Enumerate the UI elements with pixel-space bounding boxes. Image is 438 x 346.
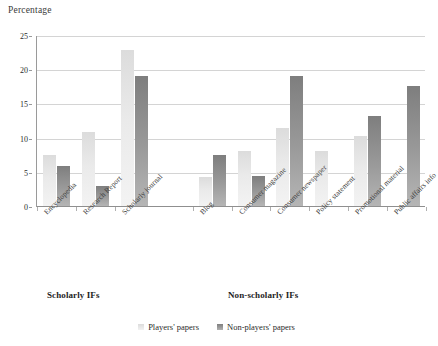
chart-legend: Players' papersNon-players' papers: [0, 322, 433, 332]
bar-group: [193, 36, 232, 206]
y-tick-mark: [29, 36, 32, 37]
y-tick-mark: [29, 207, 32, 208]
y-tick-mark: [29, 173, 32, 174]
bars-container: [37, 36, 425, 206]
y-tick-label: 0: [24, 203, 28, 212]
group-label-non-scholarly: Non-scholarly IFs: [228, 290, 298, 300]
y-axis-title: Percentage: [8, 5, 52, 15]
y-tick-label: 10: [20, 134, 28, 143]
dark-square-icon: [217, 324, 223, 330]
bar[interactable]: [121, 50, 134, 206]
light-square-icon: [138, 324, 144, 330]
bar[interactable]: [213, 155, 226, 206]
y-tick-label: 25: [20, 32, 28, 41]
y-tick-mark: [29, 139, 32, 140]
y-tick-label: 15: [20, 100, 28, 109]
legend-item[interactable]: Non-players' papers: [217, 322, 295, 332]
x-tick-mark: [426, 207, 427, 211]
x-axis-labels: EncyclopediaResearch ReportScholarly jou…: [36, 210, 425, 280]
group-label-scholarly: Scholarly IFs: [47, 290, 100, 300]
y-axis-ticks: 0510152025: [0, 36, 32, 207]
y-tick-mark: [29, 104, 32, 105]
legend-label: Players' papers: [148, 322, 199, 332]
plot-area: [36, 36, 425, 207]
y-tick-mark: [29, 70, 32, 71]
y-tick-label: 5: [24, 168, 28, 177]
legend-label: Non-players' papers: [227, 322, 295, 332]
legend-item[interactable]: Players' papers: [138, 322, 199, 332]
bar[interactable]: [354, 136, 367, 206]
y-tick-label: 20: [20, 66, 28, 75]
bar[interactable]: [82, 132, 95, 206]
